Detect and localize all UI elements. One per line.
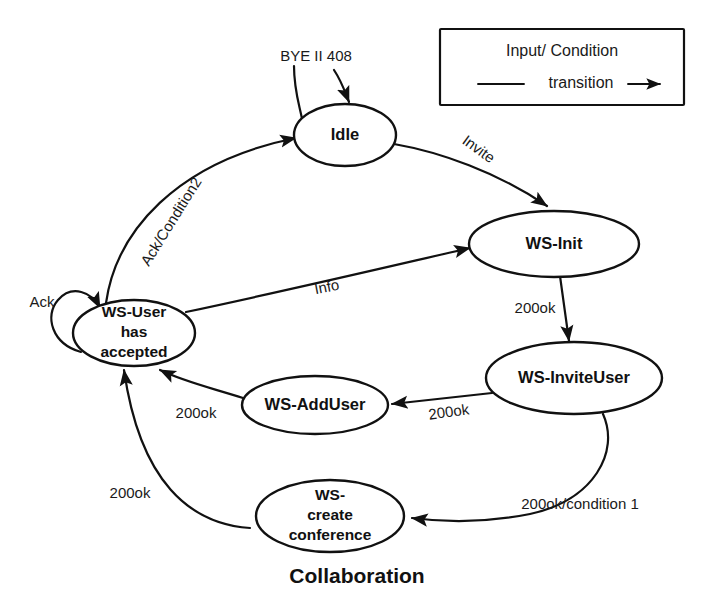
state-ws-init-label: WS-Init xyxy=(526,234,583,252)
transition-adduser-user-path xyxy=(160,370,243,398)
transition-bye-408-arrow xyxy=(334,70,349,102)
transition-init-inviteuser: 200ok xyxy=(515,276,569,341)
state-ws-adduser-label: WS-AddUser xyxy=(265,395,366,413)
transition-adduser-user: 200ok xyxy=(160,370,243,421)
transition-conference-user-label: 200ok xyxy=(110,484,151,501)
state-ws-create-conference[interactable]: WS- create conference xyxy=(256,480,404,552)
transition-idle-init-path xyxy=(394,144,547,206)
state-ws-user-accepted-label-line2: has xyxy=(121,323,148,340)
transition-init-inviteuser-label: 200ok xyxy=(515,299,556,316)
state-ws-inviteuser-label: WS-InviteUser xyxy=(518,368,630,386)
legend-title: Input/ Condition xyxy=(506,42,618,59)
transition-idle-init: Invite xyxy=(394,131,547,206)
state-ws-create-conference-label-line1: WS- xyxy=(315,486,345,503)
state-ws-create-conference-label-line2: create xyxy=(307,506,353,523)
transition-inviteuser-adduser: 200ok xyxy=(392,393,492,423)
state-ws-create-conference-label-line3: conference xyxy=(289,526,372,543)
state-idle[interactable]: Idle xyxy=(294,104,396,166)
transition-user-self-label: Ack xyxy=(29,293,55,310)
transition-init-inviteuser-path xyxy=(560,276,569,341)
transition-inviteuser-adduser-path xyxy=(392,393,492,404)
state-ws-inviteuser[interactable]: WS-InviteUser xyxy=(486,342,662,414)
legend-transition-label: transition xyxy=(549,74,614,91)
transition-idle-init-label: Invite xyxy=(459,131,498,166)
state-idle-label: Idle xyxy=(331,125,359,143)
transition-user-init: Info xyxy=(186,248,470,312)
transition-user-init-label: Info xyxy=(313,276,341,297)
transition-inviteuser-adduser-label: 200ok xyxy=(427,400,470,423)
transition-user-idle: Ack/Condition2 xyxy=(106,138,296,303)
transition-user-idle-path xyxy=(106,138,296,303)
transition-user-idle-label: Ack/Condition2 xyxy=(137,174,205,269)
transition-inviteuser-conference: 200ok/condition 1 xyxy=(412,414,639,521)
state-ws-user-accepted-label-line1: WS-User xyxy=(102,303,167,320)
state-ws-init[interactable]: WS-Init xyxy=(469,211,639,277)
state-ws-user-accepted[interactable]: WS-User has accepted xyxy=(73,300,195,366)
legend-box xyxy=(440,29,684,105)
diagram-caption: Collaboration xyxy=(289,564,424,587)
state-ws-user-accepted-label-line3: accepted xyxy=(100,343,167,360)
transition-bye-408-stem xyxy=(294,66,303,124)
transition-adduser-user-label: 200ok xyxy=(176,404,217,421)
transition-bye-408-label: BYE II 408 xyxy=(280,47,352,64)
legend: Input/ Condition transition xyxy=(440,29,684,105)
state-diagram: Input/ Condition transition BYE II 408 I… xyxy=(0,0,715,612)
state-ws-adduser[interactable]: WS-AddUser xyxy=(242,376,388,434)
transition-inviteuser-conference-label: 200ok/condition 1 xyxy=(521,495,639,512)
